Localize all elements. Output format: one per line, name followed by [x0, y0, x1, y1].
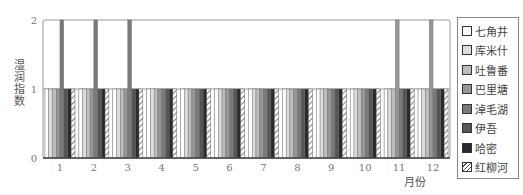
svg-text:2: 2 [31, 15, 37, 26]
legend-swatch [462, 84, 472, 94]
legend-item: 哈密 [462, 138, 518, 158]
svg-text:5: 5 [192, 162, 198, 173]
plot-area: 012123456789101112 [31, 15, 450, 173]
legend-label: 哈密 [475, 140, 497, 156]
legend-swatch [462, 123, 472, 133]
legend-swatch [462, 143, 472, 153]
svg-text:12: 12 [427, 162, 440, 173]
legend-label: 淖毛湖 [475, 101, 508, 117]
svg-text:2: 2 [91, 162, 97, 173]
svg-text:3: 3 [125, 162, 131, 173]
legend-swatch [462, 65, 472, 75]
legend-item: 伊吾 [462, 119, 518, 139]
legend-item: 七角井 [462, 21, 518, 41]
legend-swatch [462, 26, 472, 36]
x-axis-label: 月份 [404, 173, 426, 189]
legend-label: 吐鲁番 [475, 62, 508, 78]
legend-item: 吐鲁番 [462, 60, 518, 80]
legend-label: 伊吾 [475, 120, 497, 136]
legend-item: 库米什 [462, 41, 518, 61]
legend-label: 库米什 [475, 42, 508, 58]
legend-label: 红柳河 [475, 159, 508, 175]
svg-text:1: 1 [57, 162, 63, 173]
svg-text:9: 9 [328, 162, 334, 173]
legend-swatch [462, 162, 472, 172]
svg-text:4: 4 [159, 162, 165, 173]
svg-text:1: 1 [31, 84, 37, 95]
legend: 七角井 库米什 吐鲁番 巴里塘 淖毛湖 伊吾 哈密 红柳河 [457, 17, 519, 179]
legend-swatch [462, 104, 472, 114]
y-axis-label: 湿润指数 [14, 60, 28, 108]
svg-text:6: 6 [226, 162, 232, 173]
legend-item: 红柳河 [462, 158, 518, 178]
legend-item: 巴里塘 [462, 80, 518, 100]
svg-text:10: 10 [359, 162, 372, 173]
svg-text:8: 8 [294, 162, 300, 173]
legend-item: 淖毛湖 [462, 99, 518, 119]
legend-label: 巴里塘 [475, 81, 508, 97]
svg-text:7: 7 [260, 162, 266, 173]
svg-text:11: 11 [393, 162, 406, 173]
bar-chart: 012123456789101112 [0, 0, 523, 195]
svg-text:0: 0 [31, 153, 37, 164]
legend-label: 七角井 [475, 23, 508, 39]
legend-swatch [462, 45, 472, 55]
